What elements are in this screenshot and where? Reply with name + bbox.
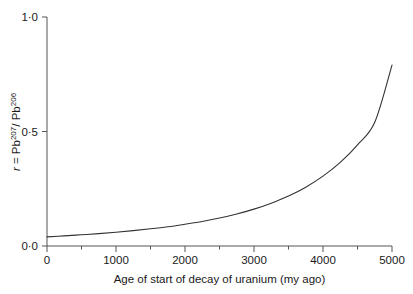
y-axis-title-numerator-base: Pb <box>10 140 22 154</box>
chart-figure: 0·00·51·0 010002000300040005000 Age of s… <box>0 0 413 294</box>
y-axis-title-equals: = <box>10 154 22 167</box>
x-axis-title: Age of start of decay of uranium (my ago… <box>114 273 326 285</box>
x-tick-label-2: 2000 <box>172 254 198 266</box>
y-tick-label-2: 1·0 <box>21 11 38 23</box>
chart-background <box>0 0 413 294</box>
y-axis-title-denominator-base: Pb <box>10 106 22 120</box>
uranium-decay-lead-ratio-chart: 0·00·51·0 010002000300040005000 Age of s… <box>0 0 413 294</box>
y-axis-title-denominator-superscript: 206 <box>9 92 18 106</box>
x-tick-label-4: 4000 <box>310 254 336 266</box>
y-axis-title-numerator-superscript: 207 <box>9 126 18 140</box>
x-tick-label-0: 0 <box>44 254 50 266</box>
y-tick-label-1: 0·5 <box>21 126 38 138</box>
y-tick-label-0: 0·0 <box>21 240 38 252</box>
x-tick-label-3: 3000 <box>241 254 267 266</box>
x-tick-label-1: 1000 <box>103 254 129 266</box>
x-tick-label-5: 5000 <box>379 254 405 266</box>
